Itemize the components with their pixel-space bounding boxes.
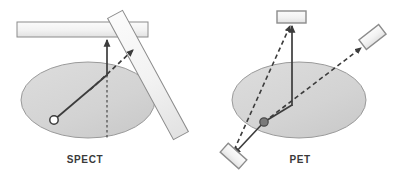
pet-panel: PET: [220, 11, 386, 169]
pet-coincidence-ray-solid-to-bottom-left: [234, 122, 264, 154]
spect-phantom-ellipse: [21, 62, 155, 138]
pet-detector-top: [277, 11, 306, 23]
spect-pet-comparison-diagram: SPECT PET: [0, 0, 397, 176]
pet-panel-label: PET: [289, 154, 310, 165]
pet-detector-bottom-left: [220, 143, 247, 169]
pet-detector-upper-right: [359, 25, 386, 50]
spect-panel-label: SPECT: [67, 154, 103, 165]
spect-panel: SPECT: [17, 10, 188, 165]
figure-root: SPECT PET: [0, 0, 397, 176]
spect-point-source-open: [50, 116, 58, 124]
pet-phantom-ellipse: [232, 62, 366, 138]
pet-annihilation-point-source-filled: [260, 118, 268, 126]
